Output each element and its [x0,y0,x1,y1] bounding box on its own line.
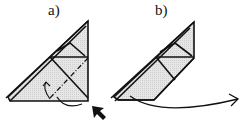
panel-a-figure [6,21,88,106]
origami-diagram [0,0,249,126]
pointer-arrow-icon [92,106,106,120]
panel-b-figure [111,22,238,108]
